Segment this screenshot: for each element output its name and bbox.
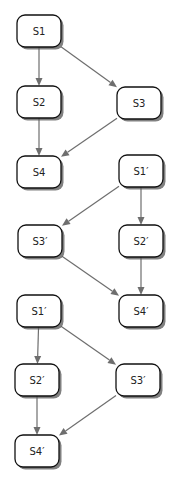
edge-g3-s1-to-g3-s2 xyxy=(38,327,39,356)
arrowhead-icon xyxy=(34,356,41,364)
edge-g3-s1-to-g3-s3 xyxy=(61,326,109,360)
node-label: S2 xyxy=(33,97,46,108)
edge-g3-s3-to-g3-s4 xyxy=(66,395,116,430)
flow-diagram: S1S2S3S4S1′S3′S2′S4′S1′S2′S3′S4′ xyxy=(0,0,175,488)
node-label: S1′ xyxy=(32,306,48,317)
node-label: S3′ xyxy=(33,236,49,247)
node-label: S3′ xyxy=(131,375,147,386)
node-g2-s2: S2′ xyxy=(119,225,166,260)
node-g2-s4: S4′ xyxy=(119,295,166,330)
node-g3-s1: S1′ xyxy=(17,295,64,330)
edge-g2-s3-to-g2-s4 xyxy=(62,256,112,291)
arrowhead-icon xyxy=(138,217,145,225)
arrowhead-icon xyxy=(107,357,116,364)
arrowhead-icon xyxy=(110,288,119,295)
node-label: S4 xyxy=(33,167,46,178)
node-g3-s4: S4′ xyxy=(15,435,62,470)
node-label: S2′ xyxy=(134,236,150,247)
node-g3-s2: S2′ xyxy=(15,364,62,399)
node-g1-s3: S3 xyxy=(117,87,164,122)
node-label: S2′ xyxy=(30,375,46,386)
node-g1-s4: S4 xyxy=(17,156,64,191)
node-label: S1 xyxy=(33,26,46,37)
arrowhead-icon xyxy=(138,287,145,295)
edge-g2-s1-to-g2-s3 xyxy=(69,186,119,221)
edge-g1-s1-to-g1-s3 xyxy=(61,47,111,83)
node-label: S1′ xyxy=(134,166,150,177)
node-g2-s1: S1′ xyxy=(119,155,166,190)
arrowhead-icon xyxy=(36,78,43,86)
arrowhead-icon xyxy=(59,428,68,435)
arrowhead-icon xyxy=(61,149,70,156)
arrowhead-icon xyxy=(36,148,43,156)
node-g1-s2: S2 xyxy=(17,86,64,121)
node-label: S4′ xyxy=(30,446,46,457)
arrowhead-icon xyxy=(34,427,41,435)
arrowhead-icon xyxy=(62,218,71,225)
node-label: S4′ xyxy=(134,306,150,317)
node-label: S3 xyxy=(133,98,146,109)
node-g1-s1: S1 xyxy=(17,15,64,50)
arrowhead-icon xyxy=(108,80,117,88)
edge-g1-s3-to-g1-s4 xyxy=(68,118,117,152)
node-g3-s3: S3′ xyxy=(116,364,163,399)
node-g2-s3: S3′ xyxy=(18,225,65,260)
